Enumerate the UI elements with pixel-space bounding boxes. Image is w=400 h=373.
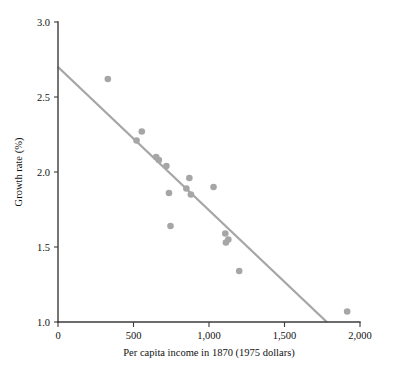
data-points-group: 330, 2.62520, 2.21555, 2.27650, 2.1668, … <box>105 76 351 315</box>
y-tick-label: 1.0 <box>37 317 50 328</box>
data-point: 1128, 1.55 <box>225 236 232 243</box>
data-point: 880, 1.85 <box>188 191 195 198</box>
data-point: 870, 1.96 <box>186 175 193 182</box>
y-tick-label: 2.0 <box>37 167 50 178</box>
axes-group <box>54 22 360 327</box>
data-point: 1030, 1.9 <box>210 184 217 191</box>
data-point: 520, 2.21 <box>133 137 140 144</box>
y-axis-title: Growth rate (%) <box>13 137 25 206</box>
data-point: 1200, 1.34 <box>236 268 243 275</box>
y-tick-label: 3.0 <box>37 17 50 28</box>
data-point: 745, 1.64 <box>167 223 174 230</box>
x-tick-label: 2,000 <box>348 330 372 341</box>
x-tick-label: 0 <box>55 330 60 341</box>
data-point: 735, 1.86 <box>166 190 173 197</box>
x-tick-label: 500 <box>126 330 142 341</box>
x-tick-label: 1,000 <box>197 330 221 341</box>
data-point: 718, 2.04 <box>163 163 170 170</box>
scatter-plot-figure: 330, 2.62520, 2.21555, 2.27650, 2.1668, … <box>0 0 400 373</box>
x-axis-title: Per capita income in 1870 (1975 dollars) <box>123 347 295 359</box>
data-point: 850, 1.89 <box>183 185 190 192</box>
data-point: 330, 2.62 <box>105 76 112 83</box>
data-point: 1108, 1.59 <box>222 230 229 237</box>
y-tick-label: 1.5 <box>37 242 50 253</box>
data-point: 1915, 1.07 <box>344 308 351 315</box>
data-point: 555, 2.27 <box>139 128 146 135</box>
plot-canvas: 330, 2.62520, 2.21555, 2.27650, 2.1668, … <box>0 0 400 373</box>
y-tick-label: 2.5 <box>37 92 50 103</box>
data-point: 668, 2.08 <box>156 157 163 164</box>
tick-labels-group: 1.01.52.02.53.005001,0001,5002,000 <box>37 17 372 341</box>
x-tick-label: 1,500 <box>273 330 297 341</box>
